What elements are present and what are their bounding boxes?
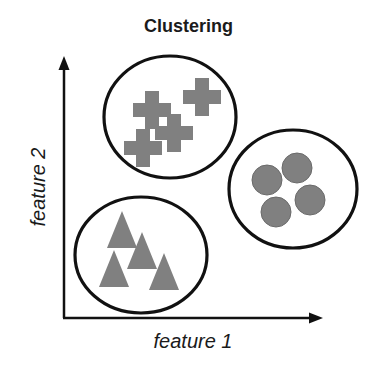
y-axis-label: feature 2	[27, 148, 50, 227]
circle-marker-icon	[282, 153, 312, 183]
y-axis-arrow-icon	[59, 56, 70, 70]
cluster-crosses	[104, 56, 236, 178]
triangle-marker-icon	[107, 211, 137, 248]
cluster-triangles	[75, 197, 207, 313]
cluster-boundary	[229, 130, 357, 248]
cross-marker-icon	[183, 78, 221, 116]
triangle-marker-icon	[149, 253, 179, 290]
x-axis-label: feature 1	[64, 330, 322, 353]
circle-marker-icon	[295, 185, 325, 215]
clustering-diagram	[0, 0, 377, 368]
clusters	[75, 56, 357, 313]
cluster-circles	[229, 130, 357, 248]
triangle-marker-icon	[99, 250, 129, 287]
cross-marker-icon	[133, 91, 171, 129]
circle-marker-icon	[252, 165, 282, 195]
circle-marker-icon	[261, 197, 291, 227]
x-axis-arrow-icon	[309, 313, 323, 324]
